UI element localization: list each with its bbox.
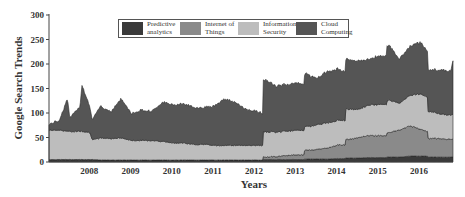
legend-label-line2: Computing — [321, 28, 353, 36]
y-tick-labels: 050100150200250300 — [31, 10, 50, 167]
y-tick-label: 300 — [31, 10, 45, 20]
x-tick-label: 2009 — [121, 166, 140, 176]
x-tick-label: 2011 — [204, 166, 222, 176]
x-tick-label: 2014 — [328, 166, 347, 176]
y-tick-label: 200 — [31, 59, 45, 69]
x-tick-label: 2010 — [163, 166, 182, 176]
legend-swatch-predictive-analytics — [122, 22, 143, 35]
legend-label: Internet ofThings — [205, 21, 235, 36]
x-axis-title: Years — [241, 178, 268, 190]
y-tick-label: 100 — [31, 108, 45, 118]
chart-legend: Predictiveanalytics Internet ofThings In… — [118, 19, 349, 38]
legend-item-cloud-computing: CloudComputing — [293, 20, 351, 37]
x-tick-label: 2008 — [80, 166, 99, 176]
legend-swatch-cloud-computing — [296, 22, 317, 35]
y-tick-label: 0 — [40, 157, 45, 167]
legend-label: InformationSecurity — [263, 21, 293, 36]
y-tick-label: 150 — [31, 84, 45, 94]
y-tick-label: 250 — [31, 35, 45, 45]
x-tick-labels: 200820092010201120122013201420152016 — [80, 166, 428, 176]
x-tick-label: 2015 — [369, 166, 388, 176]
x-tick-label: 2013 — [286, 166, 305, 176]
legend-item-internet-of-things: Internet ofThings — [177, 20, 235, 37]
y-tick-label: 50 — [35, 133, 45, 143]
legend-label: CloudComputing — [321, 21, 351, 36]
legend-swatch-internet-of-things — [180, 22, 201, 35]
legend-label: Predictiveanalytics — [147, 21, 177, 36]
plot-area — [49, 42, 453, 162]
legend-label-line2: analytics — [147, 28, 172, 36]
legend-swatch-information-security — [238, 22, 259, 35]
legend-item-information-security: InformationSecurity — [235, 20, 293, 37]
legend-item-predictive-analytics: Predictiveanalytics — [119, 20, 177, 37]
x-tick-label: 2016 — [410, 166, 429, 176]
legend-label-line2: Things — [205, 28, 224, 36]
y-axis-title: Google Search Trends — [12, 36, 24, 140]
x-tick-label: 2012 — [245, 166, 264, 176]
legend-label-line2: Security — [263, 28, 286, 36]
